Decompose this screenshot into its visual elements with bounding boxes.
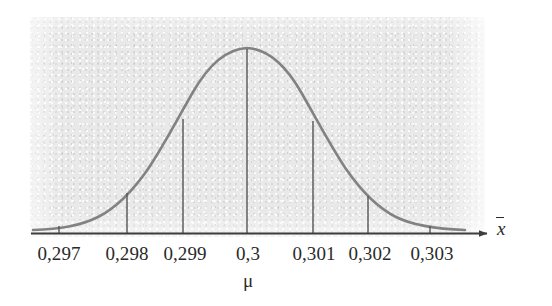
x-tick-label-0302: 0,302 xyxy=(348,243,391,265)
x-bar-glyph: x xyxy=(497,216,505,240)
x-tick-label-0301: 0,301 xyxy=(292,243,335,265)
x-tick-label-0297: 0,297 xyxy=(37,243,80,265)
gaussian-curve xyxy=(33,48,465,230)
x-tick-label-03: 0,3 xyxy=(236,243,260,265)
x-tick-label-0299: 0,299 xyxy=(163,243,206,265)
x-tick-label-0298: 0,298 xyxy=(105,243,148,265)
x-bar-axis-label: x xyxy=(497,216,505,240)
x-tick-label-0303: 0,303 xyxy=(410,243,453,265)
normal-curve-graphic xyxy=(0,0,552,306)
figure-canvas: 0,297 0,298 0,299 0,3 0,301 0,302 0,303 … xyxy=(0,0,552,306)
mu-annotation-label: μ xyxy=(243,270,253,292)
